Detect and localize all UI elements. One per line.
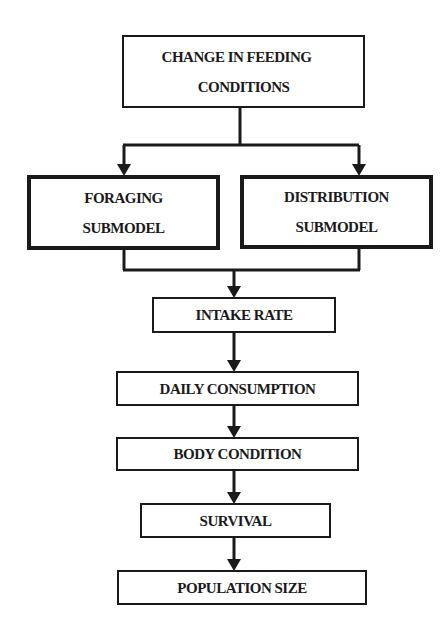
node-label-line2: SUBMODEL (296, 212, 378, 242)
node-survival: SURVIVAL (140, 503, 331, 538)
node-label: INTAKE RATE (196, 300, 293, 330)
node-distribution-submodel: DISTRIBUTION SUBMODEL (240, 175, 433, 249)
node-label: DAILY CONSUMPTION (160, 374, 316, 404)
node-label-line1: DISTRIBUTION (284, 182, 389, 212)
node-label: SURVIVAL (200, 506, 272, 536)
node-foraging-submodel: FORAGING SUBMODEL (27, 175, 220, 250)
node-label-line1: FORAGING (84, 183, 163, 213)
node-intake-rate: INTAKE RATE (152, 297, 336, 333)
node-label: BODY CONDITION (174, 439, 302, 469)
node-daily-consumption: DAILY CONSUMPTION (116, 371, 359, 406)
node-change-in-feeding-conditions: CHANGE IN FEEDING CONDITIONS (122, 35, 365, 108)
node-label-line2: CONDITIONS (198, 72, 290, 102)
node-label-line1: CHANGE IN FEEDING (162, 42, 312, 72)
node-population-size: POPULATION SIZE (117, 570, 367, 605)
node-label-line2: SUBMODEL (83, 213, 165, 243)
node-label: POPULATION SIZE (177, 573, 306, 603)
node-body-condition: BODY CONDITION (116, 437, 359, 471)
